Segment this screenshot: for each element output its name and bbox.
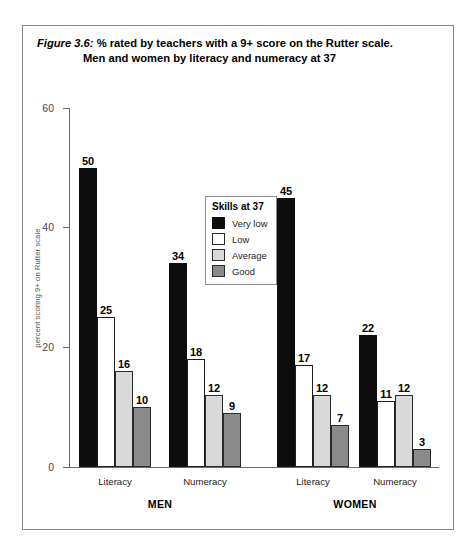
bar-value-label: 9 bbox=[229, 400, 235, 412]
bar-value-label: 10 bbox=[136, 394, 148, 406]
legend-item-very-low[interactable]: Very low bbox=[212, 215, 267, 231]
bar-value-label: 34 bbox=[172, 250, 184, 262]
low-swatch-icon bbox=[212, 233, 225, 245]
figure-title-line-1: Figure 3.6: % rated by teachers with a 9… bbox=[37, 36, 437, 51]
y-tick-label-60: 60 bbox=[42, 102, 54, 114]
bar-value-label: 45 bbox=[280, 185, 292, 197]
y-tick-20: 20 bbox=[63, 347, 69, 348]
x-axis-line bbox=[69, 467, 439, 468]
category-label-men-numeracy: Numeracy bbox=[183, 476, 227, 487]
bar-value-label: 12 bbox=[316, 382, 328, 394]
bar[interactable]: 18 bbox=[187, 359, 205, 467]
bar-value-label: 12 bbox=[398, 382, 410, 394]
y-tick-0: 0 bbox=[63, 467, 69, 468]
y-tick-label-20: 20 bbox=[42, 341, 54, 353]
legend-label-good: Good bbox=[232, 266, 255, 277]
bar[interactable]: 12 bbox=[313, 395, 331, 467]
bar[interactable]: 50 bbox=[79, 168, 97, 467]
y-tick-label-0: 0 bbox=[48, 461, 54, 473]
very-low-swatch-icon bbox=[212, 217, 225, 229]
legend-item-average[interactable]: Average bbox=[212, 247, 267, 263]
bar[interactable]: 45 bbox=[277, 198, 295, 467]
bar[interactable]: 34 bbox=[169, 263, 187, 467]
group-label-men: MEN bbox=[148, 498, 172, 510]
legend-item-low[interactable]: Low bbox=[212, 231, 267, 247]
legend-label-very-low: Very low bbox=[232, 218, 267, 229]
bar-value-label: 11 bbox=[380, 388, 392, 400]
y-axis-title: percent scoring 9+ on Rutter scale bbox=[33, 228, 42, 347]
bar-value-label: 3 bbox=[419, 436, 425, 448]
bar-value-label: 16 bbox=[118, 358, 130, 370]
bar-value-label: 25 bbox=[100, 304, 112, 316]
figure-title-text: % rated by teachers with a 9+ score on t… bbox=[97, 37, 393, 49]
bar[interactable]: 12 bbox=[205, 395, 223, 467]
good-swatch-icon bbox=[212, 265, 225, 277]
category-label-women-literacy: Literacy bbox=[296, 476, 330, 487]
category-label-men-literacy: Literacy bbox=[98, 476, 132, 487]
y-tick-60: 60 bbox=[63, 108, 69, 109]
bar[interactable]: 12 bbox=[395, 395, 413, 467]
category-label-women-numeracy: Numeracy bbox=[373, 476, 417, 487]
bar-value-label: 18 bbox=[190, 346, 202, 358]
bar-value-label: 22 bbox=[362, 322, 374, 334]
y-tick-label-40: 40 bbox=[42, 221, 54, 233]
bar[interactable]: 11 bbox=[377, 401, 395, 467]
legend-item-good[interactable]: Good bbox=[212, 263, 267, 279]
bar[interactable]: 25 bbox=[97, 317, 115, 467]
legend-title: Skills at 37 bbox=[212, 201, 267, 212]
bar[interactable]: 9 bbox=[223, 413, 241, 467]
figure-frame: Figure 3.6: % rated by teachers with a 9… bbox=[22, 25, 454, 530]
bar[interactable]: 16 bbox=[115, 371, 133, 467]
bar-value-label: 50 bbox=[82, 155, 94, 167]
bar[interactable]: 7 bbox=[331, 425, 349, 467]
bar[interactable]: 10 bbox=[133, 407, 151, 467]
average-swatch-icon bbox=[212, 249, 225, 261]
y-axis-line bbox=[69, 108, 70, 468]
bar-value-label: 12 bbox=[208, 382, 220, 394]
plot-area: percent scoring 9+ on Rutter scale 0 20 … bbox=[69, 108, 439, 467]
figure-number: Figure 3.6: bbox=[37, 37, 94, 49]
figure-title-line-2: Men and women by literacy and numeracy a… bbox=[83, 51, 437, 66]
y-tick-40: 40 bbox=[63, 227, 69, 228]
bar[interactable]: 3 bbox=[413, 449, 431, 467]
bar[interactable]: 22 bbox=[359, 335, 377, 467]
legend-label-low: Low bbox=[232, 234, 249, 245]
legend-label-average: Average bbox=[232, 250, 267, 261]
figure-title: Figure 3.6: % rated by teachers with a 9… bbox=[37, 36, 437, 66]
legend: Skills at 37 Very low Low Average Good bbox=[205, 196, 277, 285]
bar-value-label: 17 bbox=[298, 352, 310, 364]
bar-value-label: 7 bbox=[337, 412, 343, 424]
bar[interactable]: 17 bbox=[295, 365, 313, 467]
group-label-women: WOMEN bbox=[333, 498, 376, 510]
